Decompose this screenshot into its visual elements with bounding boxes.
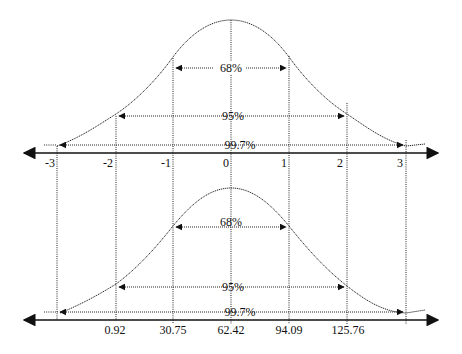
top-tick-1: 1 [281,156,287,170]
top-label-68: 68% [220,61,242,75]
top-tick-3: 3 [397,156,403,170]
top-normal-curve [57,20,425,146]
top-tick-0: 0 [223,156,229,170]
top-label-997: 99.7% [225,138,256,152]
bottom-label-997: 99.7% [225,305,256,319]
bottom-tick-092: 0.92 [105,323,126,337]
bottom-tick-6242: 62.42 [218,323,245,337]
bottom-tick-3075: 30.75 [160,323,187,337]
top-tick-minus3: -3 [45,156,55,170]
bottom-normal-curve [60,188,425,313]
top-tick-minus1: -1 [161,156,171,170]
bottom-label-68: 68% [220,215,242,229]
bottom-label-95: 95% [222,280,244,294]
bottom-tick-12576: 125.76 [332,323,365,337]
top-tick-minus2: -2 [103,156,113,170]
top-tick-2: 2 [337,156,343,170]
top-label-95: 95% [222,109,244,123]
bottom-tick-9409: 94.09 [276,323,303,337]
empirical-rule-diagram: 68% 95% 99.7% -3 -2 -1 0 1 2 3 68% 95% 9… [0,0,462,354]
